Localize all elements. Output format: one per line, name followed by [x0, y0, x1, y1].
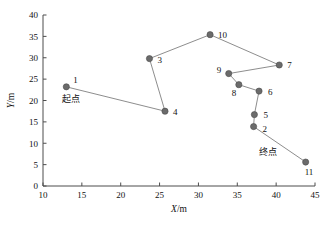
data-point-marker: [276, 62, 282, 68]
data-point-label: 4: [173, 107, 178, 117]
y-tick-label: 10: [29, 139, 39, 149]
data-point-marker: [162, 108, 168, 114]
end-point-annotation: 终点: [259, 146, 277, 157]
x-tick-label: 20: [116, 190, 126, 200]
x-tick-label: 45: [311, 190, 321, 200]
y-tick-label: 35: [29, 32, 39, 42]
route-series-layer: [63, 32, 309, 166]
scatter-chart-figure: 10152025303540450510152025303540 1431079…: [0, 0, 328, 227]
x-tick-label: 15: [77, 190, 87, 200]
x-tick-label: 35: [233, 190, 243, 200]
data-point-label: 1: [73, 75, 78, 85]
annotations-layer: 起点终点: [62, 94, 277, 157]
data-point-label: 5: [263, 110, 268, 120]
data-point-marker: [303, 159, 309, 165]
data-point-marker: [236, 82, 242, 88]
data-point-marker: [251, 112, 257, 118]
x-tick-label: 30: [194, 190, 204, 200]
y-tick-label: 20: [29, 96, 39, 106]
y-tick-label: 5: [34, 160, 39, 170]
y-tick-label: 40: [29, 10, 39, 20]
data-point-marker: [146, 56, 152, 62]
data-point-label: 7: [287, 60, 292, 70]
y-axis-title: Y/m: [6, 92, 16, 108]
plot-canvas: 10152025303540450510152025303540 1431079…: [0, 0, 328, 227]
route-polyline: [66, 35, 305, 162]
data-point-marker: [207, 32, 213, 38]
x-axis-title: X/m: [170, 204, 187, 214]
x-tick-label: 25: [155, 190, 165, 200]
data-point-marker: [256, 88, 262, 94]
data-point-marker: [251, 123, 257, 129]
data-point-label: 11: [305, 167, 314, 177]
y-tick-label: 15: [29, 117, 39, 127]
data-point-label: 9: [217, 65, 222, 75]
y-tick-label: 0: [34, 181, 39, 191]
y-tick-label: 30: [29, 53, 39, 63]
data-point-label: 6: [268, 87, 273, 97]
data-point-label: 3: [157, 55, 162, 65]
data-point-label: 2: [263, 124, 268, 134]
start-point-annotation: 起点: [62, 94, 80, 104]
data-point-marker: [63, 84, 69, 90]
data-point-label: 8: [232, 88, 237, 98]
data-point-marker: [226, 70, 232, 76]
y-tick-label: 25: [29, 74, 39, 84]
x-tick-label: 40: [272, 190, 282, 200]
axes-layer: 10152025303540450510152025303540: [29, 10, 320, 200]
data-point-label: 10: [218, 30, 228, 40]
x-tick-label: 10: [39, 190, 49, 200]
